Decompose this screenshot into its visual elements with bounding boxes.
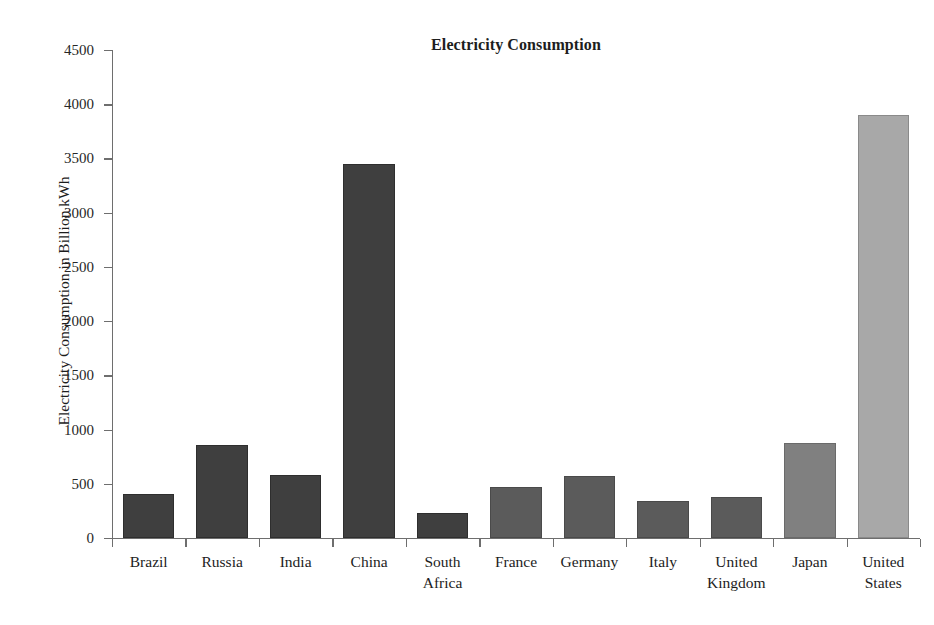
y-axis-tick — [104, 158, 112, 159]
x-axis-label-line: Africa — [406, 572, 479, 593]
bar-united-states[interactable] — [858, 115, 909, 538]
bar-japan[interactable] — [784, 443, 835, 538]
y-axis-tick — [104, 430, 112, 431]
x-axis-label-line: Kingdom — [700, 572, 773, 593]
x-axis-tick — [259, 539, 260, 547]
x-axis-label-line: Russia — [185, 551, 258, 572]
y-axis-tick — [104, 213, 112, 214]
x-axis-label-france: France — [479, 551, 552, 572]
plot-area — [112, 50, 920, 538]
x-axis-label-line: States — [847, 572, 920, 593]
x-axis-label-germany: Germany — [553, 551, 626, 572]
y-axis-tick — [104, 538, 112, 539]
y-axis-tick — [104, 321, 112, 322]
x-axis-tick — [479, 539, 480, 547]
x-axis-label-line: Japan — [773, 551, 846, 572]
y-axis-tick-label: 3500 — [34, 150, 94, 167]
x-axis-label-line: United — [847, 551, 920, 572]
x-axis-tick — [112, 539, 113, 547]
x-axis-tick — [185, 539, 186, 547]
y-axis-tick-label: 0 — [34, 530, 94, 547]
x-axis-label-india: India — [259, 551, 332, 572]
bar-germany[interactable] — [564, 476, 615, 538]
bar-russia[interactable] — [196, 445, 247, 538]
y-axis-tick-label: 4000 — [34, 96, 94, 113]
x-axis-label-line: South — [406, 551, 479, 572]
y-axis-tick-label: 1000 — [34, 421, 94, 438]
y-axis-tick-label: 3000 — [34, 204, 94, 221]
x-axis-line — [112, 538, 920, 539]
bar-south-africa[interactable] — [417, 513, 468, 538]
x-axis-label-line: France — [479, 551, 552, 572]
x-axis-label-line: Germany — [553, 551, 626, 572]
x-axis-tick — [847, 539, 848, 547]
y-axis-tick — [104, 50, 112, 51]
x-axis-label-line: India — [259, 551, 332, 572]
y-axis-tick — [104, 484, 112, 485]
x-axis-tick — [626, 539, 627, 547]
x-axis-tick — [406, 539, 407, 547]
y-axis-tick-label: 4500 — [34, 42, 94, 59]
x-axis-label-russia: Russia — [185, 551, 258, 572]
x-axis-tick — [332, 539, 333, 547]
x-axis-label-united-kingdom: UnitedKingdom — [700, 551, 773, 594]
y-axis-tick-label: 1500 — [34, 367, 94, 384]
x-axis-tick — [920, 539, 921, 547]
x-axis-tick — [553, 539, 554, 547]
x-axis-label-brazil: Brazil — [112, 551, 185, 572]
x-axis-label-united-states: UnitedStates — [847, 551, 920, 594]
y-axis-tick — [104, 267, 112, 268]
y-axis-tick-label: 500 — [34, 475, 94, 492]
x-axis-label-line: Italy — [626, 551, 699, 572]
y-axis-tick-label: 2000 — [34, 313, 94, 330]
x-axis-label-china: China — [332, 551, 405, 572]
x-axis-label-japan: Japan — [773, 551, 846, 572]
bar-china[interactable] — [343, 164, 394, 538]
y-axis-tick-label: 2500 — [34, 258, 94, 275]
x-axis-label-italy: Italy — [626, 551, 699, 572]
x-axis-tick — [700, 539, 701, 547]
x-axis-label-line: China — [332, 551, 405, 572]
bar-italy[interactable] — [637, 501, 688, 538]
bar-france[interactable] — [490, 487, 541, 538]
x-axis-label-line: United — [700, 551, 773, 572]
x-axis-label-line: Brazil — [112, 551, 185, 572]
x-axis-tick — [773, 539, 774, 547]
bar-chart-figure: Electricity Consumption Electricity Cons… — [0, 0, 934, 625]
bar-brazil[interactable] — [123, 494, 174, 538]
bar-india[interactable] — [270, 475, 321, 538]
bar-united-kingdom[interactable] — [711, 497, 762, 538]
y-axis-tick — [104, 375, 112, 376]
x-axis-label-south-africa: SouthAfrica — [406, 551, 479, 594]
y-axis-tick — [104, 104, 112, 105]
